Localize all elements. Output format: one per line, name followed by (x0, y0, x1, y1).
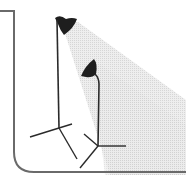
stand-pole (57, 20, 59, 128)
tripod-leg (30, 128, 59, 137)
studio-lights-illustration (0, 0, 186, 184)
tripod-leg (84, 134, 98, 146)
tripod-leg (59, 124, 72, 128)
tripod-leg (59, 128, 77, 159)
light-beam-group (62, 22, 186, 175)
tripod-leg (80, 146, 98, 168)
